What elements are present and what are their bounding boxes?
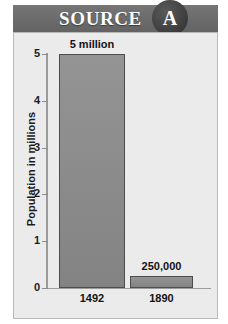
plot-area: 012345 Population in millions 5 million1… — [14, 33, 219, 320]
y-tick-label: 0 — [14, 281, 40, 293]
y-tick-mark — [42, 148, 48, 149]
bar-value-1890: 250,000 — [116, 260, 207, 272]
bar-1492 — [59, 54, 125, 288]
y-tick-mark — [42, 288, 48, 289]
bar-1890 — [130, 276, 193, 288]
bar-value-1492: 5 million — [45, 38, 139, 50]
source-badge-letter: A — [152, 0, 188, 36]
chart-panel: 012345 Population in millions 5 million1… — [13, 32, 218, 319]
y-tick-label: 5 — [14, 47, 40, 59]
x-axis-line — [46, 288, 211, 289]
y-tick-mark — [42, 194, 48, 195]
y-tick-mark — [42, 101, 48, 102]
source-a-figure: SOURCE A 012345 Population in millions 5… — [0, 0, 228, 324]
y-axis-title: Population in millions — [25, 74, 37, 264]
category-label-1890: 1890 — [120, 292, 203, 304]
y-tick-0: 0 — [14, 288, 54, 289]
y-tick-5: 5 — [14, 54, 54, 55]
y-tick-mark — [42, 241, 48, 242]
y-tick-mark — [42, 54, 48, 55]
source-badge: A — [152, 0, 188, 36]
y-axis-line — [46, 53, 48, 289]
